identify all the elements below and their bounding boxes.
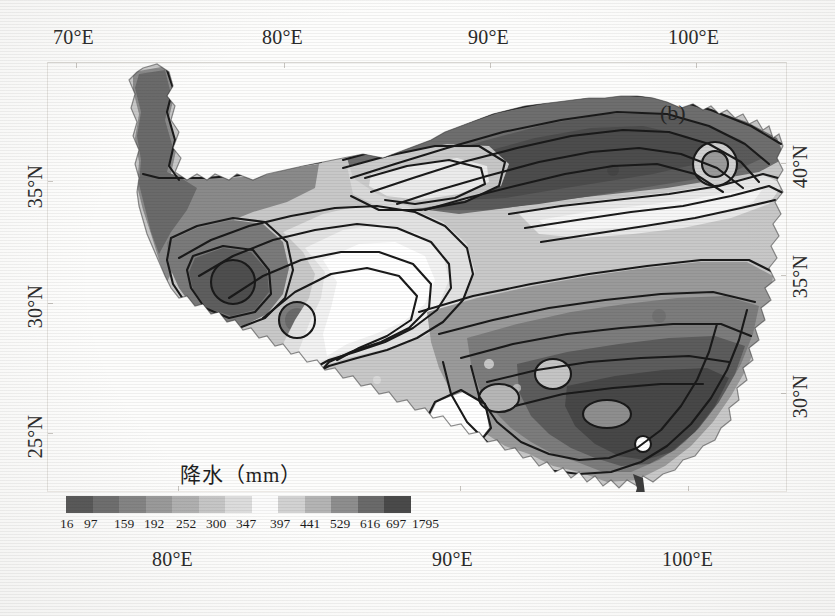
colorbar-tick-8: 441 [300, 516, 320, 532]
colorbar-tick-9: 529 [330, 516, 350, 532]
colorbar-swatch-2 [119, 496, 146, 513]
colorbar-tick-11: 697 [386, 516, 406, 532]
colorbar-tick-10: 616 [360, 516, 380, 532]
speckle-4 [652, 309, 666, 323]
colorbar-tick-0: 16 [60, 516, 74, 532]
colorbar-swatch-8 [278, 496, 305, 513]
axis-label-left-1: 30°N [24, 267, 47, 347]
contour-south-cell-2 [381, 411, 417, 437]
axis-label-right-0: 40°N [789, 127, 812, 207]
axis-label-bottom-0: 80°E [152, 548, 193, 571]
speckle-3 [373, 376, 381, 384]
colorbar-swatch-5 [199, 496, 226, 513]
axis-label-top-2: 90°E [468, 26, 509, 49]
colorbar-swatch-1 [93, 496, 120, 513]
colorbar-tick-3: 192 [144, 516, 164, 532]
speckle-1 [484, 359, 494, 369]
contour-south-arc-2 [293, 396, 337, 406]
axis-label-bottom-1: 90°E [432, 548, 473, 571]
precipitation-contour-figure: 70°E 80°E 90°E 100°E 35°N 30°N 25°N 40°N… [0, 0, 835, 616]
colorbar-swatch-6 [225, 496, 252, 513]
axis-label-bottom-2: 100°E [662, 548, 713, 571]
axis-label-right-2: 30°N [789, 357, 812, 437]
colorbar-tick-12: 1795 [412, 516, 439, 532]
region-south-cell-1 [325, 396, 369, 428]
colorbar-swatch-12 [384, 496, 411, 513]
region-south-cell-2 [381, 411, 417, 437]
axis-label-left-0: 35°N [24, 147, 47, 227]
colorbar-tick-labels: 16 97 159 192 252 300 347 397 441 529 61… [60, 516, 420, 536]
colorbar-tick-5: 300 [206, 516, 226, 532]
panel-label: (b) [660, 100, 686, 126]
colorbar-tick-7: 397 [270, 516, 290, 532]
map-plot-area [47, 62, 787, 492]
axis-label-top-0: 70°E [53, 26, 94, 49]
colorbar-tick-2: 159 [114, 516, 134, 532]
axis-label-right-1: 35°N [789, 237, 812, 317]
contour-south-arc-1 [287, 380, 333, 392]
contour-south-cell-3 [293, 388, 339, 428]
colorbar-legend: 降水（mm） 16 97 159 192 252 300 347 397 4 [60, 458, 430, 536]
precipitation-contour-map [47, 62, 787, 492]
colorbar-swatch-11 [358, 496, 385, 513]
contour-south-cell-3b [297, 394, 331, 422]
colorbar [66, 496, 411, 513]
contour-south-cell-1 [325, 396, 369, 428]
colorbar-tick-6: 347 [236, 516, 256, 532]
axis-label-top-3: 100°E [668, 26, 719, 49]
axis-label-left-2: 25°N [24, 397, 47, 477]
region-south-cell-3-core [299, 396, 329, 420]
colorbar-swatch-10 [331, 496, 358, 513]
colorbar-swatch-7 [252, 496, 279, 513]
colorbar-swatch-0 [66, 496, 93, 513]
colorbar-title: 降水（mm） [52, 458, 430, 488]
colorbar-swatch-9 [305, 496, 332, 513]
colorbar-tick-1: 97 [84, 516, 98, 532]
axis-label-top-1: 80°E [262, 26, 303, 49]
colorbar-tick-4: 252 [176, 516, 196, 532]
contour-south-arc-3 [369, 434, 429, 454]
colorbar-swatch-4 [172, 496, 199, 513]
region-south-cell-3 [295, 390, 337, 426]
colorbar-swatch-3 [146, 496, 173, 513]
map-fill-layer [47, 62, 787, 492]
